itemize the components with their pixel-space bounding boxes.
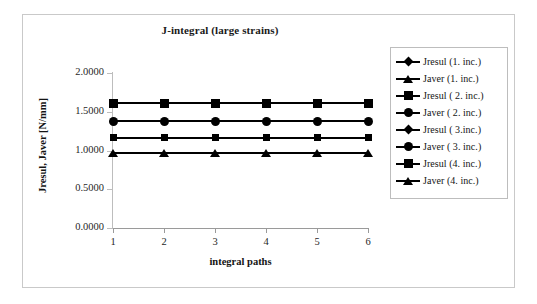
data-point-marker bbox=[161, 134, 168, 141]
data-point-marker bbox=[364, 99, 373, 108]
legend-item-label: Javer (4. inc.) bbox=[423, 175, 479, 186]
legend-marker-triangle-icon bbox=[395, 174, 421, 188]
y-axis-tick bbox=[107, 112, 113, 113]
data-point-marker bbox=[211, 117, 220, 126]
x-axis-tick bbox=[215, 228, 216, 233]
legend-item[interactable]: Javer ( 2. inc.) bbox=[395, 104, 504, 121]
legend-item[interactable]: Javer ( 3. inc.) bbox=[395, 138, 504, 155]
series-line bbox=[113, 152, 368, 154]
legend-marker-square-icon bbox=[395, 157, 421, 171]
legend-item-label: Jresul ( 2. inc.) bbox=[423, 90, 484, 101]
x-axis-title: integral paths bbox=[113, 256, 368, 267]
legend-item-label: Jresul (1. inc.) bbox=[423, 56, 481, 67]
legend-item[interactable]: Jresul ( 3.inc.) bbox=[395, 121, 504, 138]
x-axis-tick bbox=[113, 228, 114, 233]
x-axis-tick-label: 5 bbox=[305, 236, 329, 247]
data-point-marker bbox=[365, 134, 372, 141]
x-axis-tick bbox=[317, 228, 318, 233]
series-line bbox=[113, 102, 368, 104]
x-axis-tick bbox=[164, 228, 165, 233]
data-point-marker bbox=[212, 134, 219, 141]
y-axis-tick-label: 1.5000 bbox=[48, 105, 104, 116]
legend-item[interactable]: Jresul (1. inc.) bbox=[395, 53, 504, 70]
data-point-marker bbox=[262, 99, 271, 108]
x-axis-tick-label: 1 bbox=[101, 236, 125, 247]
data-point-marker bbox=[109, 99, 118, 108]
legend-marker-circle-icon bbox=[395, 106, 421, 120]
data-point-marker bbox=[159, 149, 169, 157]
legend-marker-diamond-icon bbox=[395, 123, 421, 137]
data-point-marker bbox=[262, 117, 271, 126]
data-point-marker bbox=[261, 149, 271, 157]
legend-item-label: Jresul (4. inc.) bbox=[423, 158, 481, 169]
y-axis-tick-label: 1.0000 bbox=[48, 144, 104, 155]
legend-item[interactable]: Jresul (4. inc.) bbox=[395, 155, 504, 172]
data-point-marker bbox=[210, 149, 220, 157]
data-point-marker bbox=[108, 149, 118, 157]
legend-marker-circle-icon bbox=[395, 140, 421, 154]
data-point-marker bbox=[109, 117, 118, 126]
data-point-marker bbox=[160, 117, 169, 126]
y-axis-title: Jresul, Javer [N/mm] bbox=[37, 66, 48, 226]
x-axis-line bbox=[112, 228, 369, 229]
legend-item[interactable]: Jresul ( 2. inc.) bbox=[395, 87, 504, 104]
chart-figure: J-integral (large strains) 0.00000.50001… bbox=[0, 0, 537, 304]
y-axis-tick bbox=[107, 73, 113, 74]
data-point-marker bbox=[110, 134, 117, 141]
series-line bbox=[113, 137, 368, 139]
y-axis-tick-label: 2.0000 bbox=[48, 66, 104, 77]
legend-item[interactable]: Javer (1. inc.) bbox=[395, 70, 504, 87]
x-axis-tick-label: 4 bbox=[254, 236, 278, 247]
legend-marker-triangle-icon bbox=[395, 72, 421, 86]
data-point-marker bbox=[263, 134, 270, 141]
x-axis-tick-label: 6 bbox=[356, 236, 380, 247]
legend-item-label: Javer ( 3. inc.) bbox=[423, 141, 481, 152]
x-axis-tick-label: 3 bbox=[203, 236, 227, 247]
y-axis-tick-label: 0.0000 bbox=[48, 221, 104, 232]
data-point-marker bbox=[312, 149, 322, 157]
legend-marker-square-icon bbox=[395, 89, 421, 103]
legend-item-label: Javer ( 2. inc.) bbox=[423, 107, 481, 118]
legend-item-label: Javer (1. inc.) bbox=[423, 73, 479, 84]
data-point-marker bbox=[313, 117, 322, 126]
x-axis-tick bbox=[266, 228, 267, 233]
legend-marker-diamond-icon bbox=[395, 55, 421, 69]
y-axis-tick bbox=[107, 189, 113, 190]
x-axis-tick-label: 2 bbox=[152, 236, 176, 247]
x-axis-tick bbox=[368, 228, 369, 233]
data-point-marker bbox=[160, 99, 169, 108]
data-point-marker bbox=[363, 149, 373, 157]
data-point-marker bbox=[211, 99, 220, 108]
chart-legend: Jresul (1. inc.)Javer (1. inc.)Jresul ( … bbox=[390, 47, 508, 199]
legend-item[interactable]: Javer (4. inc.) bbox=[395, 172, 504, 189]
data-point-marker bbox=[314, 134, 321, 141]
data-point-marker bbox=[313, 99, 322, 108]
data-point-marker bbox=[364, 117, 373, 126]
series-line bbox=[113, 120, 368, 122]
y-axis-tick-label: 0.5000 bbox=[48, 182, 104, 193]
legend-item-label: Jresul ( 3.inc.) bbox=[423, 124, 481, 135]
